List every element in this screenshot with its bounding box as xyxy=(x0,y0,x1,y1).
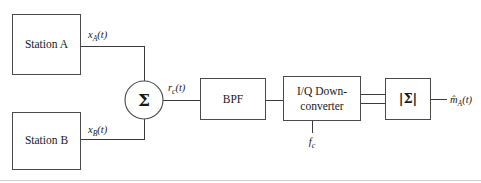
signal-f-c-subscript: c xyxy=(312,141,316,150)
svg-text:rc(t): rc(t) xyxy=(168,82,186,96)
block-iq-downconverter xyxy=(284,77,361,121)
block-station-a-label: Station A xyxy=(25,38,69,50)
block-iq-downconverter-label-line2: converter xyxy=(300,100,344,112)
signal-label-r-c: rc(t) xyxy=(168,82,186,96)
signal-label-x-b: xB(t) xyxy=(87,124,108,138)
signal-label-f-c: fc xyxy=(309,136,316,150)
signal-label-x-a: xA(t) xyxy=(87,29,108,43)
svg-text:xB(t): xB(t) xyxy=(87,124,108,138)
svg-text:fc: fc xyxy=(309,136,316,150)
signal-x-a-argument: (t) xyxy=(97,29,107,41)
svg-text:m̂A(t): m̂A(t) xyxy=(450,94,473,108)
signal-m-hat-a-argument: (t) xyxy=(462,94,472,106)
diagram-canvas: Station A Station B Σ BPF I/Q Down- conv… xyxy=(0,0,481,183)
block-bpf-label: BPF xyxy=(223,93,243,105)
block-station-b-label: Station B xyxy=(25,134,68,146)
signal-label-m-hat-a: m̂A(t) xyxy=(450,94,473,108)
block-iq-downconverter-label-line1: I/Q Down- xyxy=(297,85,347,97)
signal-x-b-argument: (t) xyxy=(97,124,107,136)
signal-r-c-argument: (t) xyxy=(175,82,185,94)
summing-junction-sigma-label: Σ xyxy=(138,90,150,110)
block-diagram-figure: Station A Station B Σ BPF I/Q Down- conv… xyxy=(0,0,481,183)
svg-text:xA(t): xA(t) xyxy=(87,29,108,43)
block-magnitude-label: |Σ| xyxy=(399,91,418,106)
wire-station-a-to-summer xyxy=(81,46,145,81)
